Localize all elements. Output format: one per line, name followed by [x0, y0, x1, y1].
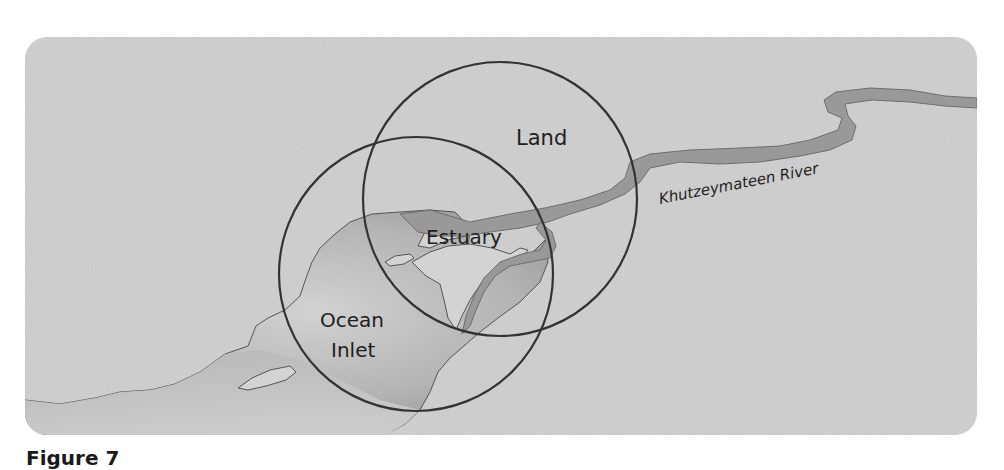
- figure-caption: Figure 7: [26, 446, 119, 470]
- ocean-label-line1: Ocean: [320, 308, 384, 332]
- map-panel: Land Estuary Ocean Inlet Khutzeymateen R…: [25, 37, 977, 436]
- ocean-label-line2: Inlet: [331, 338, 375, 362]
- land-label: Land: [516, 126, 567, 150]
- estuary-label: Estuary: [426, 225, 502, 249]
